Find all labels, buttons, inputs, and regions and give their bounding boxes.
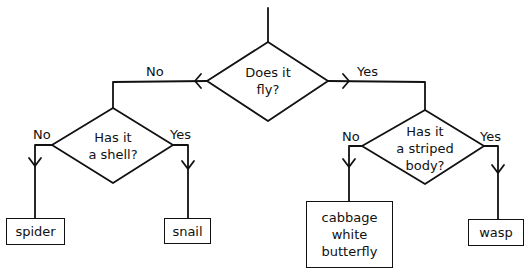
shell-yes-label: Yes — [170, 126, 191, 143]
striped-question-line-1: Has it — [396, 123, 453, 140]
striped-yes-label: Yes — [480, 128, 501, 145]
shell-question-line-1: Has it — [88, 129, 137, 146]
striped-question-line-2: a striped — [396, 140, 453, 157]
shell-yes-connector — [173, 145, 188, 218]
result-butterfly-line-2: white — [332, 226, 368, 243]
result-snail: snail — [164, 218, 211, 244]
result-wasp-label: wasp — [479, 224, 513, 241]
shell-no-label: No — [33, 126, 51, 143]
result-spider-label: spider — [15, 223, 55, 240]
striped-question: Has it a striped body? — [396, 123, 453, 174]
striped-no-connector — [349, 146, 362, 201]
shell-question-line-2: a shell? — [88, 146, 137, 163]
root-question-line-1: Does it — [245, 64, 291, 81]
result-butterfly-line-3: butterfly — [322, 243, 378, 260]
result-spider: spider — [6, 218, 65, 245]
root-yes-connector — [328, 81, 425, 110]
result-cabbage-white-butterfly: cabbage white butterfly — [306, 201, 393, 268]
striped-yes-connector — [484, 146, 498, 219]
root-yes-label: Yes — [357, 63, 378, 80]
root-question: Does it fly? — [245, 64, 291, 98]
root-no-connector — [113, 81, 207, 108]
result-snail-label: snail — [172, 223, 202, 240]
result-wasp: wasp — [468, 219, 524, 246]
striped-no-label: No — [342, 128, 360, 145]
shell-question: Has it a shell? — [88, 129, 137, 163]
root-question-line-2: fly? — [245, 81, 291, 98]
striped-question-line-3: body? — [396, 157, 453, 174]
shell-no-connector — [35, 145, 52, 218]
result-butterfly-line-1: cabbage — [322, 209, 378, 226]
root-no-label: No — [146, 63, 164, 80]
